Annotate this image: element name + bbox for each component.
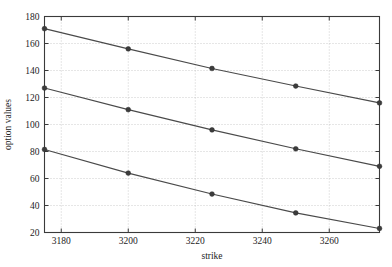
series-data-point <box>210 66 215 71</box>
y-tick-label: 60 <box>30 174 40 184</box>
x-axis-title: strike <box>201 251 222 261</box>
series-data-point <box>210 127 215 132</box>
line-chart: 2040608010012014016018031803200322032403… <box>0 0 392 267</box>
data-series <box>42 26 382 105</box>
y-tick-label: 160 <box>25 39 40 49</box>
x-tick-label: 3200 <box>119 236 138 246</box>
data-series <box>42 147 382 231</box>
series-data-point <box>377 101 382 106</box>
series-data-point <box>126 171 131 176</box>
series-data-point <box>126 107 131 112</box>
series-data-point <box>293 211 298 216</box>
series-data-point <box>42 26 47 31</box>
series-data-point <box>293 146 298 151</box>
y-axis-title: option values <box>3 99 13 150</box>
y-tick-label: 180 <box>25 12 40 22</box>
series-data-point <box>377 226 382 231</box>
x-tick-label: 3180 <box>52 236 71 246</box>
y-tick-label: 120 <box>25 93 40 103</box>
data-series-group <box>42 26 382 231</box>
series-data-point <box>377 164 382 169</box>
series-data-point <box>210 192 215 197</box>
series-data-point <box>42 86 47 91</box>
x-tick-label: 3220 <box>186 236 205 246</box>
x-tick-label: 3260 <box>320 236 339 246</box>
y-tick-label: 100 <box>25 120 40 130</box>
x-tick-label: 3240 <box>253 236 272 246</box>
grid-lines <box>45 17 380 233</box>
tick-labels-group: 2040608010012014016018031803200322032403… <box>25 12 339 246</box>
series-data-point <box>42 147 47 152</box>
series-data-point <box>126 47 131 52</box>
chart-figure: 2040608010012014016018031803200322032403… <box>0 0 392 267</box>
y-tick-label: 80 <box>30 147 40 157</box>
y-tick-label: 140 <box>25 66 40 76</box>
series-data-point <box>293 84 298 89</box>
y-tick-label: 40 <box>30 201 40 211</box>
data-series <box>42 86 382 169</box>
y-tick-label: 20 <box>30 228 40 238</box>
